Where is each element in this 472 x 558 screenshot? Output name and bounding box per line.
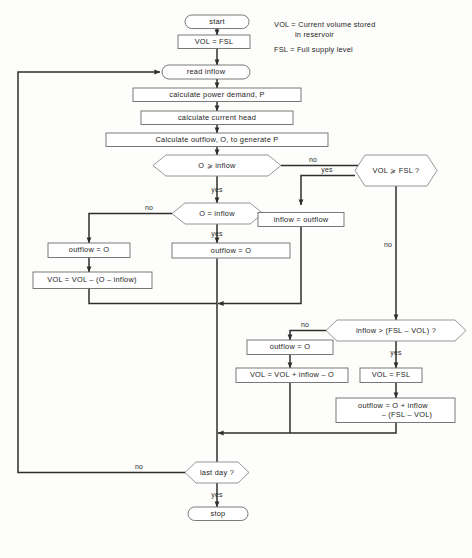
edge-label-yes-dec3: yes (321, 166, 333, 174)
node-start-label: start (209, 17, 225, 26)
node-dec-last-day: last day ? (185, 462, 249, 483)
node-vol-plus-label: VOL = VOL + inflow – O (250, 370, 334, 379)
node-outflow-spill: outflow = O + inflow – (FSL – VOL) (336, 398, 455, 423)
node-vol-plus: VOL = VOL + inflow – O (236, 368, 348, 383)
node-outflow-eq-o-low-label: outflow = O (270, 342, 310, 351)
node-calc-outflow: Calculate outflow, O, to generate P (106, 133, 328, 147)
node-vol-minus-label: VOL = VOL – (O – inflow) (47, 275, 136, 284)
node-outflow-eq-o-mid-label: outflow = O (211, 246, 251, 255)
node-dec-last-day-label: last day ? (200, 468, 234, 477)
edge-label-no-dec1: no (309, 156, 317, 163)
edge-inflow-eq-to-merge (218, 227, 301, 304)
edge-label-no-dec4: no (301, 321, 309, 328)
edge-spill-to-bottom-merge (218, 423, 396, 434)
edge-dec2-no-to-outflow-left (89, 214, 172, 244)
edge-volminus-to-merge (89, 289, 217, 304)
node-init-vol-label: VOL = FSL (195, 37, 234, 46)
node-init-vol: VOL = FSL (178, 35, 250, 49)
node-dec-o-ge-inflow: O ⩾ inflow (153, 155, 281, 176)
node-vol-minus: VOL = VOL – (O – inflow) (33, 272, 152, 289)
node-dec-inflow-gt: inflow > (FSL – VOL) ? (326, 320, 466, 341)
node-read-inflow-label: read inflow (187, 67, 226, 76)
node-calc-head: calculate current head (141, 111, 293, 125)
node-read-inflow: read inflow (162, 65, 250, 79)
legend-fsl-line1: FSL = Full supply level (274, 45, 353, 54)
legend-vol-line2: in reservoir (295, 30, 334, 39)
edge-label-no-lastday: no (135, 463, 143, 470)
node-dec-o-ge-inflow-label: O ⩾ inflow (198, 161, 236, 170)
edge-label-yes-dec4: yes (390, 349, 402, 357)
node-outflow-spill-line2: – (FSL – VOL) (382, 410, 433, 419)
node-stop-label: stop (211, 509, 226, 518)
node-inflow-eq-outflow-label: inflow = outflow (274, 215, 329, 224)
node-outflow-eq-o-low: outflow = O (247, 340, 333, 355)
node-calc-power-label: calculate power demand, P (169, 90, 264, 99)
edge-label-yes-dec1: yes (211, 186, 223, 194)
edge-label-yes-dec2: yes (211, 230, 223, 238)
legend-vol-line1: VOL = Current volume stored (274, 20, 375, 29)
node-vol-eq-fsl-label: VOL = FSL (372, 370, 411, 379)
node-outflow-eq-o-mid: outflow = O (172, 243, 290, 258)
node-dec-inflow-gt-label: inflow > (FSL – VOL) ? (356, 326, 436, 335)
legend: VOL = Current volume stored in reservoir… (274, 20, 375, 54)
flowchart-canvas: start VOL = FSL read inflow calculate po… (0, 0, 472, 558)
edge-label-no-dec2: no (145, 204, 153, 211)
node-calc-power: calculate power demand, P (133, 88, 301, 102)
edge-label-yes-lastday: yes (211, 491, 223, 499)
node-outflow-eq-o-left-label: outflow = O (69, 245, 109, 254)
node-stop: stop (188, 507, 248, 521)
node-outflow-spill-line1: outflow = O + inflow (358, 401, 428, 410)
node-dec-vol-ge-fsl: VOL ⩾ FSL ? (355, 155, 437, 186)
edge-dec3-yes-to-inflow-eq (301, 176, 355, 206)
node-inflow-eq-outflow: inflow = outflow (258, 213, 344, 227)
node-vol-eq-fsl: VOL = FSL (360, 368, 422, 383)
node-dec-o-eq-inflow-label: O = inflow (199, 209, 235, 218)
node-dec-o-eq-inflow: O = inflow (172, 203, 263, 224)
node-dec-vol-ge-fsl-label: VOL ⩾ FSL ? (373, 166, 420, 175)
node-start: start (185, 15, 249, 29)
flowchart-page: start VOL = FSL read inflow calculate po… (0, 0, 472, 558)
node-calc-outflow-label: Calculate outflow, O, to generate P (156, 135, 279, 144)
node-calc-head-label: calculate current head (178, 113, 256, 122)
edge-label-no-dec3: no (384, 241, 392, 248)
edge-dec4-no-to-outflow-low (290, 331, 326, 341)
node-outflow-eq-o-left: outflow = O (48, 243, 130, 258)
